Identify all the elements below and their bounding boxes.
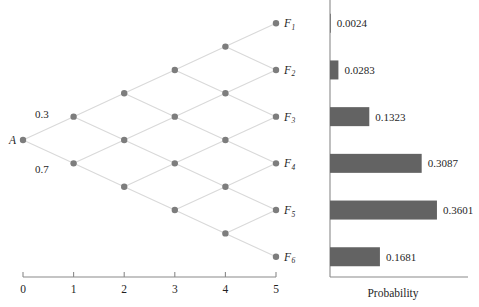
lattice-terminal-node	[273, 254, 279, 260]
bar-F6	[330, 247, 380, 266]
lattice-edge-up	[225, 163, 276, 186]
terminal-node-label-3: F3	[283, 111, 296, 126]
lattice-edge-up	[225, 70, 276, 93]
lattice-node	[70, 160, 76, 166]
lattice-terminal-node	[273, 67, 279, 73]
lattice-node	[222, 230, 228, 236]
lattice-edge-down	[175, 210, 226, 233]
lattice-edge-up	[124, 117, 175, 140]
step-axis-tick-label: 0	[20, 283, 26, 295]
lattice-node	[121, 184, 127, 190]
bar-value-label-F2: 0.0283	[344, 64, 375, 76]
lattice-edge-down	[124, 93, 175, 116]
terminal-node-label-2: F2	[283, 64, 296, 79]
lattice-nodes	[20, 20, 279, 260]
lattice-edge-up	[124, 70, 175, 93]
terminal-node-subscript: 5	[292, 210, 296, 219]
terminal-node-subscript: 4	[292, 163, 296, 172]
lattice-node	[70, 113, 76, 119]
lattice-terminal-node	[273, 113, 279, 119]
terminal-node-label-6: F6	[283, 251, 296, 266]
lattice-edge-down	[74, 117, 125, 140]
lattice-node	[172, 113, 178, 119]
step-axis-tick-label: 5	[273, 283, 279, 295]
bar-F3	[330, 107, 369, 126]
lattice-edge-down	[124, 187, 175, 210]
lattice-root-node	[20, 137, 26, 143]
bar-chart-axis	[330, 0, 468, 277]
terminal-node-label-1: F1	[283, 17, 295, 32]
lattice-edge-down	[225, 93, 276, 116]
lattice-edge-down	[175, 163, 226, 186]
lattice-labels: A0.30.7F1F2F3F4F5F6	[8, 17, 296, 265]
lattice-node	[222, 43, 228, 49]
step-axis: 012345	[20, 272, 279, 295]
lattice-edge-up	[175, 47, 226, 70]
bar-value-labels: 0.00240.02830.13230.30870.36010.1681	[337, 17, 473, 263]
lattice-edge-up	[225, 117, 276, 140]
lattice-edges	[23, 23, 276, 257]
lattice-edge-down	[225, 47, 276, 70]
step-axis-tick-label: 4	[223, 283, 229, 295]
lattice-panel: A0.30.7F1F2F3F4F5F6 012345	[0, 0, 318, 307]
terminal-node-subscript: 2	[292, 69, 296, 78]
lattice-edge-up	[175, 140, 226, 163]
lattice-edge-down	[124, 140, 175, 163]
probability-bar-chart: 0.00240.02830.13230.30870.36010.1681 Pro…	[318, 0, 479, 307]
lattice-edge-down	[225, 140, 276, 163]
bar-value-label-F1: 0.0024	[337, 17, 368, 29]
bar-value-label-F5: 0.3601	[443, 204, 473, 216]
lattice-node	[222, 137, 228, 143]
lattice-edge-up	[175, 93, 226, 116]
root-node-label: A	[8, 134, 17, 146]
lattice-diagram: A0.30.7F1F2F3F4F5F6 012345	[0, 0, 318, 307]
bar-value-label-F3: 0.1323	[375, 111, 406, 123]
lattice-edge-down	[175, 117, 226, 140]
lattice-edge-up	[23, 117, 74, 140]
branch-probability-down: 0.7	[35, 163, 49, 175]
terminal-node-label-5: F5	[283, 204, 296, 219]
lattice-node	[222, 90, 228, 96]
lattice-edge-up	[124, 163, 175, 186]
lattice-edge-up	[225, 23, 276, 46]
lattice-terminal-node	[273, 20, 279, 26]
terminal-node-subscript: 6	[292, 256, 296, 265]
binomial-lattice-figure: A0.30.7F1F2F3F4F5F6 012345 0.00240.02830…	[0, 0, 479, 307]
lattice-edge-up	[225, 210, 276, 233]
step-axis-tick-label: 3	[172, 283, 178, 295]
lattice-node	[172, 207, 178, 213]
lattice-node	[172, 67, 178, 73]
lattice-node	[222, 184, 228, 190]
terminal-node-subscript: 3	[291, 116, 296, 125]
terminal-node-subscript: 1	[292, 23, 296, 32]
lattice-terminal-node	[273, 207, 279, 213]
bar-F5	[330, 201, 437, 220]
lattice-edge-down	[23, 140, 74, 163]
bar-F4	[330, 154, 422, 173]
bar-F2	[330, 60, 338, 79]
lattice-node	[172, 160, 178, 166]
lattice-edge-up	[175, 187, 226, 210]
lattice-edge-down	[175, 70, 226, 93]
lattice-edge-down	[74, 163, 125, 186]
step-axis-tick-label: 1	[71, 283, 77, 295]
lattice-edge-up	[74, 93, 125, 116]
branch-probability-up: 0.3	[35, 108, 49, 120]
step-axis-tick-label: 2	[121, 283, 127, 295]
lattice-edge-up	[74, 140, 125, 163]
lattice-edge-down	[225, 187, 276, 210]
probability-bar-panel: 0.00240.02830.13230.30870.36010.1681 Pro…	[318, 0, 479, 307]
lattice-edge-down	[225, 233, 276, 256]
lattice-node	[121, 137, 127, 143]
lattice-node	[121, 90, 127, 96]
bar-value-label-F6: 0.1681	[386, 251, 416, 263]
bar-axis-label: Probability	[367, 287, 418, 300]
bar-value-label-F4: 0.3087	[428, 157, 459, 169]
lattice-terminal-node	[273, 160, 279, 166]
bar-F1	[330, 14, 331, 33]
bar-series	[330, 14, 437, 267]
terminal-node-label-4: F4	[283, 157, 296, 172]
